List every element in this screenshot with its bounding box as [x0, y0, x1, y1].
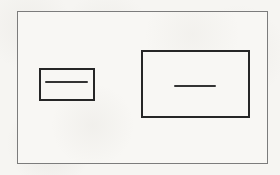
diagram-canvas [0, 0, 280, 175]
large-box-dash-line [174, 85, 216, 87]
small-box-rectangle [39, 68, 95, 101]
small-box-dash-line [45, 81, 88, 83]
large-box-rectangle [141, 50, 250, 118]
